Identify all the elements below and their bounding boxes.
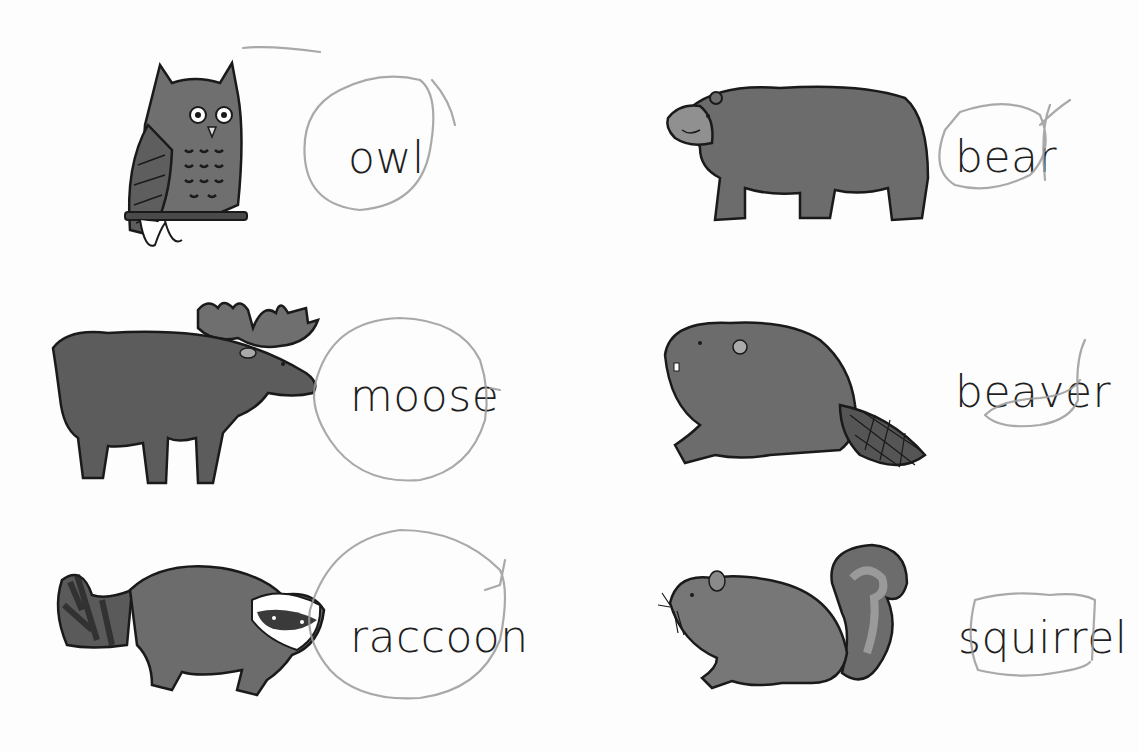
pencil-circle-owl: [243, 47, 455, 210]
squirrel-illustration: [662, 543, 937, 693]
word-raccoon[interactable]: raccoon: [350, 615, 529, 659]
word-bear[interactable]: bear: [955, 135, 1057, 179]
moose-illustration: [48, 298, 323, 488]
word-owl[interactable]: owl: [348, 136, 425, 180]
word-squirrel[interactable]: squirrel: [958, 616, 1127, 660]
owl-illustration: [120, 55, 255, 250]
bear-illustration: [660, 78, 935, 228]
beaver-illustration: [660, 315, 935, 470]
raccoon-illustration: [52, 560, 327, 700]
worksheet-page: owl bear moose beaver raccoon: [0, 0, 1139, 753]
word-beaver[interactable]: beaver: [955, 370, 1111, 414]
word-moose[interactable]: moose: [350, 374, 499, 418]
